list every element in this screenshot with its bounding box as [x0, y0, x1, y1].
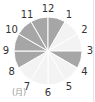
month-label: 9 — [3, 46, 9, 56]
unit-label: (月) — [12, 88, 26, 97]
month-label: 4 — [81, 67, 87, 77]
month-label: 6 — [45, 88, 51, 98]
month-label: 5 — [66, 82, 72, 92]
month-label: 1 — [66, 10, 72, 20]
month-label: 8 — [8, 67, 14, 77]
divider — [93, 0, 94, 102]
month-label: 10 — [5, 25, 18, 35]
month-label: 11 — [21, 10, 34, 20]
month-label: 12 — [42, 4, 55, 14]
month-label: 2 — [81, 25, 87, 35]
month-wheel-chart: 123456789101112 (月) — [0, 0, 95, 102]
